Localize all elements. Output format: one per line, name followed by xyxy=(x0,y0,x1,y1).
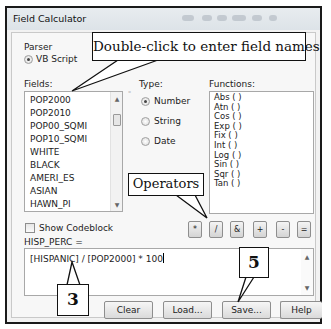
operator-ampersand-button[interactable]: & xyxy=(230,221,244,238)
fields-scrollbar[interactable]: ▲ ▼ xyxy=(110,92,122,211)
expression-scrollbar[interactable]: ▲ ▼ xyxy=(301,249,313,295)
operator-divide-button[interactable]: / xyxy=(209,221,223,238)
scroll-down-arrow-icon[interactable]: ▼ xyxy=(111,201,123,208)
scroll-thumb[interactable] xyxy=(113,114,121,126)
step-3-callout: 3 xyxy=(57,284,89,316)
functions-list[interactable]: Abs ( ) Atn ( ) Cos ( ) Exp ( ) Fix ( ) … xyxy=(209,91,314,214)
scroll-up-arrow-icon[interactable]: ▲ xyxy=(111,95,123,102)
function-item[interactable]: Tan ( ) xyxy=(210,179,313,189)
field-item[interactable]: BLACK xyxy=(25,159,122,172)
type-date-radio[interactable] xyxy=(141,137,150,146)
operator-multiply-button[interactable]: * xyxy=(188,221,202,238)
type-string-radio[interactable] xyxy=(141,117,150,126)
help-button[interactable]: Help xyxy=(280,301,322,319)
title-bar: Field Calculator xyxy=(7,8,320,30)
sort-icon[interactable]: ⁼ xyxy=(128,89,131,96)
type-number-label: Number xyxy=(154,96,190,106)
parser-label: Parser xyxy=(24,42,52,52)
operators-hint-callout: Operators xyxy=(128,173,204,196)
field-item[interactable]: POP2010 xyxy=(25,107,122,120)
load-button[interactable]: Load... xyxy=(163,301,212,319)
operator-equals-button[interactable]: = xyxy=(297,221,311,238)
field-item[interactable]: ASIAN xyxy=(25,185,122,198)
text-caret xyxy=(163,253,164,263)
operator-plus-button[interactable]: + xyxy=(253,221,267,238)
toolbar-icon xyxy=(217,15,227,21)
type-number-radio[interactable] xyxy=(141,97,150,106)
scroll-down-arrow-icon[interactable]: ▼ xyxy=(301,284,313,291)
save-button[interactable]: Save... xyxy=(222,301,271,319)
fields-label: Fields: xyxy=(24,79,53,89)
window-title: Field Calculator xyxy=(13,13,86,24)
toolbar-icon xyxy=(232,15,246,21)
parser-vbscript-label: VB Script xyxy=(36,54,77,64)
field-item[interactable]: HAWN_PI xyxy=(25,198,122,211)
type-label: Type: xyxy=(139,79,163,89)
parser-vbscript-radio[interactable] xyxy=(24,55,33,64)
toolbar-icon xyxy=(269,15,277,21)
scroll-up-arrow-icon[interactable]: ▲ xyxy=(301,253,313,260)
operator-minus-button[interactable]: - xyxy=(276,221,290,238)
type-date-label: Date xyxy=(154,136,176,146)
toolbar-icon xyxy=(252,15,262,21)
field-item[interactable]: WHITE xyxy=(25,146,122,159)
show-codeblock-checkbox[interactable] xyxy=(25,223,35,233)
field-item[interactable]: POP00_SQMI xyxy=(25,120,122,133)
toolbar-icon xyxy=(182,15,194,21)
show-codeblock-label: Show Codeblock xyxy=(39,223,113,233)
type-string-label: String xyxy=(154,116,181,126)
fields-list[interactable]: POP2000 POP2010 POP00_SQMI POP10_SQMI WH… xyxy=(24,91,123,212)
functions-label: Functions: xyxy=(209,79,255,89)
fields-hint-callout: Double-click to enter field names xyxy=(92,32,306,61)
toolbar-icon xyxy=(202,15,212,21)
field-item[interactable]: POP10_SQMI xyxy=(25,133,122,146)
field-item[interactable]: POP2000 xyxy=(25,94,122,107)
step-5-callout: 5 xyxy=(239,247,269,278)
expression-label: HISP_PERC = xyxy=(24,237,83,247)
expression-text: [HISPANIC] / [POP2000] * 100 xyxy=(30,254,163,264)
field-item[interactable]: AMERI_ES xyxy=(25,172,122,185)
clear-button[interactable]: Clear xyxy=(104,301,153,319)
